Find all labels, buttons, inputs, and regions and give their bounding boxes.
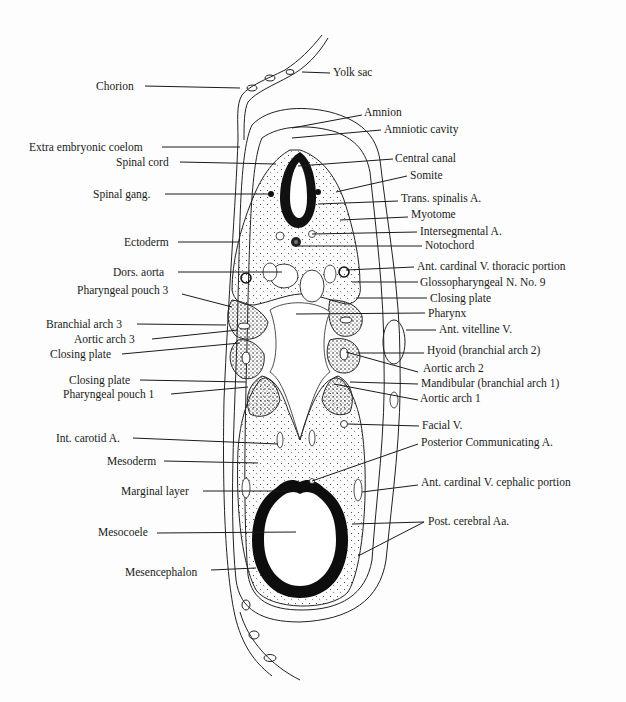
label-pharyngeal-pouch-1: Pharyngeal pouch 1 — [63, 388, 154, 401]
leader-spinal-cord — [180, 162, 276, 164]
label-ant-vitelline-v: Ant. vitelline V. — [439, 323, 512, 336]
leader-closing-plate-left-1 — [122, 343, 240, 354]
label-closing-plate-left-2: Closing plate — [69, 374, 130, 387]
label-extra-embryonic-coelom: Extra embryonic coelom — [29, 141, 143, 154]
label-glossopharyngeal-n-9: Glossopharyngeal N. No. 9 — [420, 276, 546, 289]
branchial-arches-left — [228, 300, 268, 379]
label-facial-v: Facial V. — [422, 419, 462, 432]
label-int-carotid-a: Int. carotid A. — [56, 432, 120, 445]
label-intersegmental-a: Intersegmental A. — [420, 225, 502, 238]
label-chorion: Chorion — [96, 80, 134, 93]
leader-branchial-arch-3 — [137, 324, 226, 325]
label-spinal-gang: Spinal gang. — [93, 188, 151, 201]
label-ectoderm: Ectoderm — [124, 236, 169, 249]
label-posterior-communicating-a: Posterior Communicating A. — [421, 436, 553, 449]
label-somite: Somite — [410, 169, 443, 182]
label-aortic-arch-2: Aortic arch 2 — [423, 362, 484, 375]
leader-yolk-sac — [302, 72, 330, 73]
label-amniotic-cavity: Amniotic cavity — [384, 123, 458, 136]
label-mesencephalon: Mesencephalon — [125, 566, 197, 579]
label-pharyngeal-pouch-3: Pharyngeal pouch 3 — [77, 284, 168, 297]
label-branchial-arch-3: Branchial arch 3 — [46, 318, 122, 331]
label-mesocoele: Mesocoele — [98, 526, 148, 539]
leader-amnion — [292, 115, 362, 128]
label-mandibular: Mandibular (branchial arch 1) — [421, 377, 559, 390]
label-ant-cardinal-v-cephalic: Ant. cardinal V. cephalic portion — [421, 476, 571, 489]
label-closing-plate-right: Closing plate — [430, 292, 491, 305]
branchial-arches-right — [327, 300, 362, 373]
leader-closing-plate-left-2 — [140, 380, 246, 382]
leader-post-cerebral-aa-2 — [358, 522, 424, 556]
label-yolk-sac: Yolk sac — [333, 66, 372, 79]
leader-chorion — [145, 86, 240, 88]
leader-ant-cardinal-v-cephalic — [362, 485, 418, 492]
mesocoele — [264, 492, 336, 586]
label-notochord: Notochord — [425, 239, 474, 252]
label-hyoid: Hyoid (branchial arch 2) — [427, 344, 540, 357]
label-pharynx: Pharynx — [428, 307, 466, 320]
leader-pharyngeal-pouch-1 — [171, 387, 248, 394]
label-amnion: Amnion — [364, 106, 402, 119]
label-dors-aorta: Dors. aorta — [113, 266, 164, 279]
leader-pharyngeal-pouch-3 — [182, 294, 232, 307]
label-marginal-layer: Marginal layer — [121, 485, 189, 498]
label-ant-cardinal-v-thoracic: Ant. cardinal V. thoracic portion — [417, 260, 565, 273]
embryo-section-diagram: ChorionExtra embryonic coelomSpinal cord… — [0, 0, 626, 702]
label-aortic-arch-3: Aortic arch 3 — [74, 333, 135, 346]
label-myotome: Myotome — [411, 208, 456, 221]
label-aortic-arch-1: Aortic arch 1 — [420, 392, 481, 405]
label-central-canal: Central canal — [395, 152, 456, 165]
label-closing-plate-left-1: Closing plate — [50, 348, 111, 361]
leader-amniotic-cavity — [292, 130, 381, 138]
label-trans-spinalis-a: Trans. spinalis A. — [401, 192, 481, 205]
leader-aortic-arch-3 — [152, 330, 238, 339]
ant-vitelline-vein — [383, 320, 405, 364]
label-post-cerebral-aa: Post. cerebral Aa. — [428, 515, 509, 528]
label-spinal-cord: Spinal cord — [116, 156, 169, 169]
label-mesoderm: Mesoderm — [107, 455, 156, 468]
